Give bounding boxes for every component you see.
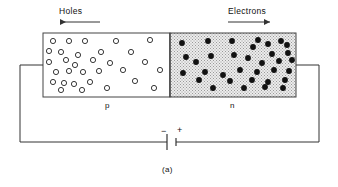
hole-marker xyxy=(46,48,51,53)
electron-marker xyxy=(237,67,243,73)
electron-marker xyxy=(265,79,271,85)
hole-marker xyxy=(75,52,80,57)
hole-marker xyxy=(63,57,68,62)
electron-marker xyxy=(269,51,275,57)
electron-marker xyxy=(193,59,199,65)
electron-marker xyxy=(229,38,235,44)
electron-marker xyxy=(259,60,265,66)
hole-marker xyxy=(142,59,147,64)
hole-marker xyxy=(80,69,85,74)
hole-marker xyxy=(90,57,95,62)
hole-marker xyxy=(98,49,103,54)
left-wire xyxy=(20,65,43,142)
electron-marker xyxy=(196,77,202,83)
electron-marker xyxy=(220,72,226,78)
electron-marker xyxy=(208,53,214,59)
hole-marker xyxy=(58,49,63,54)
electron-marker xyxy=(265,41,271,47)
hole-marker xyxy=(132,78,137,83)
pn-junction-figure: Holes Electrons p n − + (a) xyxy=(0,0,338,187)
electron-marker xyxy=(271,67,277,73)
holes-label: Holes xyxy=(59,6,82,16)
electron-marker xyxy=(278,38,284,44)
electron-marker xyxy=(231,52,237,58)
hole-marker xyxy=(113,38,118,43)
right-wire xyxy=(296,65,319,142)
battery-positive-label: + xyxy=(177,125,183,135)
hole-marker xyxy=(104,85,109,90)
electrons-label: Electrons xyxy=(228,6,266,16)
electron-marker xyxy=(286,68,292,74)
battery-symbol xyxy=(167,134,176,150)
hole-marker xyxy=(61,80,66,85)
hole-marker xyxy=(72,62,77,67)
hole-marker xyxy=(66,68,71,73)
hole-marker xyxy=(58,87,63,92)
battery-negative-label: − xyxy=(161,126,167,136)
hole-marker xyxy=(87,79,92,84)
electron-marker xyxy=(285,50,291,56)
hole-marker xyxy=(50,38,55,43)
hole-marker xyxy=(96,68,101,73)
electron-marker xyxy=(183,54,189,60)
hole-marker xyxy=(147,37,152,42)
hole-marker xyxy=(120,67,125,72)
hole-marker xyxy=(46,59,51,64)
electron-marker xyxy=(284,42,290,48)
hole-marker xyxy=(107,60,112,65)
figure-caption: (a) xyxy=(162,165,173,174)
electron-marker xyxy=(250,44,256,50)
hole-marker xyxy=(79,87,84,92)
electron-marker xyxy=(289,57,295,63)
electron-marker xyxy=(227,78,233,84)
electron-marker xyxy=(254,69,260,75)
electron-marker xyxy=(255,37,261,43)
electron-marker xyxy=(276,58,282,64)
n-region-label: n xyxy=(230,101,235,110)
hole-marker xyxy=(71,81,76,86)
electron-marker xyxy=(179,40,185,46)
hole-marker xyxy=(82,38,87,43)
hole-marker xyxy=(50,79,55,84)
diagram-canvas xyxy=(0,0,338,187)
electron-marker xyxy=(245,55,251,61)
electron-marker xyxy=(210,85,216,91)
electron-marker xyxy=(180,70,186,76)
electron-marker xyxy=(202,69,208,75)
electron-marker xyxy=(241,85,247,91)
electron-marker xyxy=(262,84,268,90)
hole-marker xyxy=(128,49,133,54)
electron-marker xyxy=(282,77,288,83)
p-region-label: p xyxy=(105,101,110,110)
electron-marker xyxy=(249,77,255,83)
hole-marker xyxy=(151,85,156,90)
electron-marker xyxy=(280,85,286,91)
hole-marker xyxy=(157,67,162,72)
hole-marker xyxy=(66,38,71,43)
electron-marker xyxy=(205,38,211,44)
hole-marker xyxy=(53,69,58,74)
